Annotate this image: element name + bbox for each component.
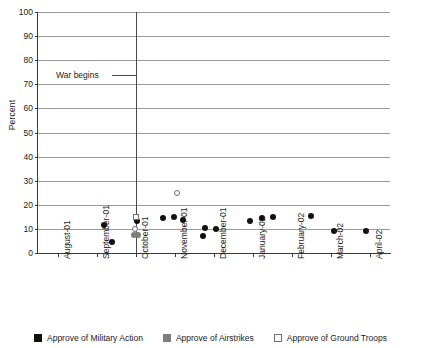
y-tick-label: 20	[24, 201, 33, 210]
data-point	[202, 225, 208, 231]
y-tick-label: 80	[24, 56, 33, 65]
data-point	[109, 239, 115, 245]
y-axis-title: Percent	[7, 85, 17, 145]
data-point	[259, 215, 265, 221]
x-tick-mark	[292, 253, 293, 257]
x-tick-label: January-02	[257, 216, 267, 259]
x-tick-label: September-01	[101, 205, 111, 259]
x-tick-label: March-02	[335, 223, 345, 259]
gray-square-icon	[163, 334, 171, 342]
open-square-icon	[274, 334, 282, 342]
y-tick-label: 0	[28, 249, 33, 258]
y-tick-mark	[35, 60, 38, 61]
gridline	[38, 84, 390, 85]
gridline	[38, 12, 390, 13]
legend-item: Approve of Military Action	[34, 333, 143, 343]
x-tick-mark	[214, 253, 215, 257]
data-point	[133, 214, 139, 220]
y-tick-mark	[35, 229, 38, 230]
data-point	[174, 190, 180, 196]
x-tick-mark	[370, 253, 371, 257]
legend-label: Approve of Military Action	[47, 333, 143, 343]
black-square-icon	[34, 334, 42, 342]
x-tick-mark	[58, 253, 59, 257]
y-tick-label: 100	[19, 8, 33, 17]
y-tick-label: 90	[24, 32, 33, 41]
gridline	[38, 36, 390, 37]
data-point	[200, 233, 206, 239]
data-point	[270, 214, 276, 220]
x-tick-label: February-02	[296, 213, 306, 259]
legend-item: Approve of Ground Troops	[274, 333, 387, 343]
x-tick-label: August-01	[62, 220, 72, 259]
data-point	[247, 218, 253, 224]
plot-area: 0102030405060708090100 August-01Septembe…	[38, 12, 390, 253]
x-tick-mark	[136, 253, 137, 257]
war-begins-label: War begins	[56, 70, 99, 80]
y-tick-label: 40	[24, 153, 33, 162]
data-point	[308, 213, 314, 219]
y-tick-label: 30	[24, 177, 33, 186]
chart-legend: Approve of Military ActionApprove of Air…	[0, 330, 421, 346]
legend-label: Approve of Airstrikes	[176, 333, 254, 343]
y-tick-mark	[35, 84, 38, 85]
y-tick-label: 10	[24, 225, 33, 234]
war-begins-leader-line	[112, 75, 136, 76]
y-tick-mark	[35, 157, 38, 158]
data-point	[363, 228, 369, 234]
data-point	[101, 222, 107, 228]
y-tick-label: 60	[24, 104, 33, 113]
x-tick-mark	[331, 253, 332, 257]
y-tick-mark	[35, 205, 38, 206]
x-tick-label: October-01	[140, 216, 150, 259]
x-tick-mark	[253, 253, 254, 257]
gridline	[38, 108, 390, 109]
legend-item: Approve of Airstrikes	[163, 333, 254, 343]
y-tick-mark	[35, 253, 38, 254]
gridline	[38, 157, 390, 158]
gridline	[38, 181, 390, 182]
y-tick-mark	[35, 108, 38, 109]
y-tick-mark	[35, 181, 38, 182]
y-tick-label: 50	[24, 129, 33, 138]
legend-label: Approve of Ground Troops	[287, 333, 387, 343]
data-point	[171, 214, 177, 220]
x-tick-label: November-01	[179, 208, 189, 260]
y-tick-label: 70	[24, 80, 33, 89]
gridline	[38, 205, 390, 206]
x-tick-mark	[175, 253, 176, 257]
gridline	[38, 60, 390, 61]
gridline	[38, 133, 390, 134]
scatter-chart-figure: Percent 0102030405060708090100 August-01…	[0, 0, 421, 348]
y-tick-mark	[35, 133, 38, 134]
x-tick-label: April-02	[374, 230, 384, 259]
x-tick-mark	[97, 253, 98, 257]
y-tick-mark	[35, 12, 38, 13]
x-tick-label: December-01	[218, 208, 228, 260]
data-point	[160, 215, 166, 221]
y-tick-mark	[35, 36, 38, 37]
